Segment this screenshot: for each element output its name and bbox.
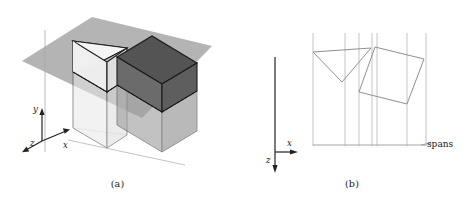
figure-root: y x z (a) (0, 0, 469, 205)
y-axis-arrow (39, 108, 44, 115)
x-axis-arrow-b (290, 149, 298, 154)
rectangle-cross-section (359, 47, 424, 104)
panel-a-graphic: y x z (0, 0, 235, 205)
x-axis-label-b: x (287, 138, 292, 148)
spans-label: spans (427, 139, 454, 149)
y-axis-label: y (32, 104, 38, 114)
triangle-cross-section (313, 48, 371, 82)
z-axis-label: z (29, 138, 35, 148)
caption-a: (a) (0, 178, 235, 189)
panel-b-graphic: spans x z (235, 0, 469, 205)
z-axis-arrow-b (272, 165, 277, 173)
x-axis-arrow (63, 128, 70, 134)
panel-b: spans x z (b) (235, 0, 469, 205)
x-axis-label: x (63, 140, 68, 150)
caption-b: (b) (235, 178, 469, 189)
panel-a: y x z (a) (0, 0, 235, 205)
axes-2d: x z (265, 57, 298, 173)
axes-3d: y x z (22, 104, 70, 152)
z-axis-label-b: z (265, 155, 271, 165)
